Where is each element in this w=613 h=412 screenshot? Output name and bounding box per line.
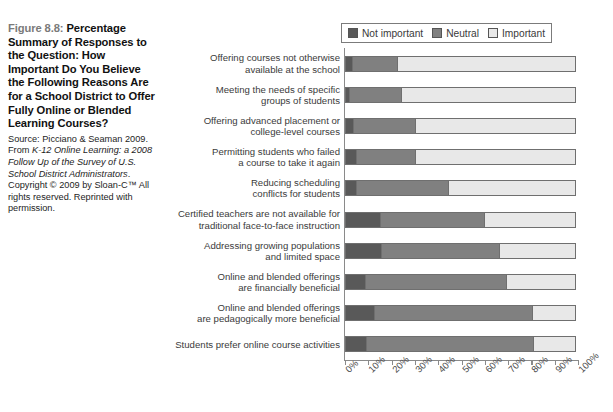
bar-segment-not-important[interactable]	[345, 336, 367, 352]
bar-segment-important[interactable]	[397, 56, 576, 72]
bar-segment-neutral[interactable]	[374, 305, 532, 321]
bar-row[interactable]	[345, 243, 578, 259]
bar-row[interactable]	[345, 336, 578, 352]
category-label: Online and blended offeringsare pedagogi…	[168, 302, 340, 324]
x-axis-tick-label: 90%	[553, 354, 574, 375]
category-label-line: are financially beneficial	[168, 282, 340, 293]
bar-row[interactable]	[345, 118, 578, 134]
x-axis-tick-label: 40%	[436, 354, 457, 375]
bar-segment-neutral[interactable]	[356, 149, 417, 165]
bar-segment-not-important[interactable]	[345, 243, 382, 259]
category-label-line: Online and blended offerings	[168, 302, 340, 313]
bar-row[interactable]	[345, 274, 578, 290]
category-label-line: Offering advanced placement or	[168, 115, 340, 126]
stacked-bar-chart: Offering courses not otherwiseavailable …	[0, 0, 613, 412]
bar-segment-neutral[interactable]	[366, 336, 534, 352]
x-axis-tick-label: 10%	[366, 354, 387, 375]
bar-segment-important[interactable]	[448, 180, 576, 196]
category-label-line: Students prefer online course activities	[168, 339, 340, 350]
bar-segment-important[interactable]	[533, 336, 576, 352]
bar-row[interactable]	[345, 87, 578, 103]
plot-area: 0%10%20%30%40%50%60%70%80%90%100%	[345, 48, 578, 360]
bar-segment-important[interactable]	[401, 87, 576, 103]
x-axis-tick-label: 80%	[529, 354, 550, 375]
category-label-line: Certified teachers are not available for	[168, 208, 340, 219]
category-label-line: groups of students	[168, 95, 340, 106]
category-label-line: Online and blended offerings	[168, 271, 340, 282]
category-label: Meeting the needs of specificgroups of s…	[168, 84, 340, 106]
category-label-line: Meeting the needs of specific	[168, 84, 340, 95]
bar-segment-not-important[interactable]	[345, 212, 381, 228]
bar-segment-neutral[interactable]	[349, 87, 403, 103]
bar-row[interactable]	[345, 305, 578, 321]
category-label-line: a course to take it again	[168, 157, 340, 168]
category-label: Reducing schedulingconflicts for student…	[168, 177, 340, 199]
bar-segment-important[interactable]	[415, 149, 576, 165]
bar-segment-important[interactable]	[506, 274, 576, 290]
category-label-line: Offering courses not otherwise	[168, 52, 340, 63]
category-label-line: Addressing growing populations	[168, 240, 340, 251]
bar-segment-not-important[interactable]	[345, 305, 375, 321]
bar-segment-important[interactable]	[484, 212, 576, 228]
x-axis-tick-label: 60%	[483, 354, 504, 375]
bar-segment-neutral[interactable]	[353, 118, 416, 134]
category-label: Certified teachers are not available for…	[168, 208, 340, 230]
category-label-line: Reducing scheduling	[168, 177, 340, 188]
category-label-line: available at the school	[168, 64, 340, 75]
bar-segment-neutral[interactable]	[352, 56, 397, 72]
category-label-line: conflicts for students	[168, 188, 340, 199]
bar-row[interactable]	[345, 56, 578, 72]
bar-row[interactable]	[345, 212, 578, 228]
bar-segment-neutral[interactable]	[365, 274, 507, 290]
bar-segment-important[interactable]	[415, 118, 576, 134]
category-label-line: and limited space	[168, 251, 340, 262]
x-axis-tick-label: 50%	[460, 354, 481, 375]
bar-segment-not-important[interactable]	[345, 274, 366, 290]
bar-segment-important[interactable]	[499, 243, 576, 259]
bar-row[interactable]	[345, 149, 578, 165]
category-axis-labels: Offering courses not otherwiseavailable …	[168, 48, 340, 360]
category-label: Offering advanced placement orcollege-le…	[168, 115, 340, 137]
category-label-line: Permitting students who failed	[168, 146, 340, 157]
bar-segment-neutral[interactable]	[356, 180, 449, 196]
category-label-line: college-level courses	[168, 126, 340, 137]
x-axis-tick-label: 20%	[390, 354, 411, 375]
category-label: Permitting students who faileda course t…	[168, 146, 340, 168]
bar-segment-neutral[interactable]	[381, 243, 500, 259]
x-axis-tick-label: 100%	[576, 350, 601, 375]
x-axis-tick-label: 70%	[506, 354, 527, 375]
x-axis-tick-label: 30%	[413, 354, 434, 375]
category-label: Online and blended offeringsare financia…	[168, 271, 340, 293]
category-label-line: traditional face-to-face instruction	[168, 220, 340, 231]
category-label-line: are pedagogically more beneficial	[168, 313, 340, 324]
bar-segment-neutral[interactable]	[380, 212, 485, 228]
bar-segment-important[interactable]	[532, 305, 576, 321]
category-label: Students prefer online course activities	[168, 339, 340, 350]
category-label: Offering courses not otherwiseavailable …	[168, 52, 340, 74]
category-label: Addressing growing populationsand limite…	[168, 240, 340, 262]
bar-row[interactable]	[345, 180, 578, 196]
